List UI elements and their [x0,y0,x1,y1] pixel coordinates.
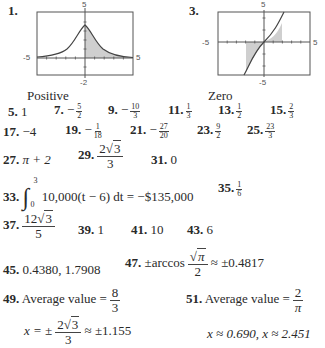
integral: ∫ 3 0 [23,180,39,207]
answer-number: 27. [3,152,19,167]
fraction: 2π [293,286,304,315]
denominator: 3 [289,112,293,120]
answer-number: 25. [247,122,263,137]
answer-21: 21. −2720 [130,122,169,140]
answer-5: 5. 1 [8,104,28,120]
answer-number: 11. [168,102,184,117]
average-value-label: Average value = [205,291,290,306]
answer-number: 31. [151,152,167,167]
x-min-label: -5 [23,53,30,62]
denominator: 5 [35,227,42,241]
answer-29: 29.2√33 [78,142,123,171]
answer-number: 13. [218,102,234,117]
radicand: 3 [113,140,122,156]
fraction: 103 [130,103,140,120]
answer-19: 19. −118 [65,122,102,140]
answer-51: 51. Average value =2π [186,286,303,315]
answer-number: 19. [65,122,81,137]
denominator: 3 [187,112,191,120]
answer-value: 10 [151,222,164,237]
numerator: 12√3 [22,212,55,227]
answer-number: 43. [187,222,203,237]
answer-49-line2: x = ±2√33 ≈ ±1.155 [24,318,131,347]
y-max-label: 5 [82,0,86,9]
fraction: 23 [288,103,294,120]
fraction: 16 [236,181,242,198]
problem-number-1: 1. [8,3,18,19]
fraction: 13 [186,103,192,120]
answer-number: 29. [78,147,94,162]
answer-27: 27. π + 2 [3,152,51,168]
fraction: 83 [110,286,121,315]
answer-number: 51. [186,291,202,306]
answer-45: 45. 0.4380, 1.7908 [3,262,101,278]
minus-sign: − [121,102,128,117]
answer-39: 39. 1 [78,222,104,238]
answer-47: 47. ±arccos√π2 ≈ ±0.4817 [125,250,264,279]
denominator: 18 [94,132,102,140]
answer-number: 23. [197,122,213,137]
cubic-curve-graph [210,2,322,86]
answer-number: 35. [218,180,234,195]
square-root: √3 [64,318,80,332]
answer-value: 6 [207,222,214,237]
fraction: 52 [76,103,82,120]
denominator: 2 [77,112,81,120]
answer-31: 31. 0 [151,152,177,168]
fraction: 118 [94,123,102,140]
radicand: 3 [71,316,80,332]
minus-sign: − [150,122,157,137]
answer-number: 37. [3,217,19,232]
answer-value: −4 [23,124,37,139]
answer-51-line2: x ≈ 0.690, x ≈ 2.451 [207,326,311,342]
answer-number: 21. [130,122,146,137]
graph-3: 5 -5 -5 5 [210,2,322,86]
answer-value: ≈ ±0.4817 [211,255,264,270]
denominator: 3 [133,112,137,120]
arccos-prefix: ±arccos [145,255,185,270]
square-root: √3 [106,142,122,156]
answer-number: 45. [3,262,19,277]
minus-sign: − [67,102,74,117]
numerator: 2 [293,286,304,301]
x-min-label: -5 [202,38,209,47]
answer-number: 9. [108,102,118,117]
denominator: 2 [237,112,241,120]
denominator: 3 [268,132,272,140]
fraction: 2720 [159,123,169,140]
denominator: 6 [237,190,241,198]
answer-number: 41. [131,222,147,237]
integrand: 10,000(t − 6) dt [42,189,124,204]
y-min-label: -5 [259,78,266,87]
answer-7: 7. −52 [54,102,82,120]
bell-curve-graph [29,2,149,86]
y-min-label: -2 [80,78,87,87]
radicand: π [197,248,206,264]
answer-35: 35.16 [218,180,242,198]
coefficient: 12 [24,211,37,226]
answer-number: 17. [3,124,19,139]
radicand: 3 [44,210,53,226]
answer-number: 49. [3,291,19,306]
fraction: √π2 [188,250,208,279]
answer-13: 13.12 [218,102,242,120]
answer-43: 43. 6 [187,222,213,238]
numerator: √π [188,250,208,265]
answer-15: 15.23 [270,102,294,120]
fraction: 12 [236,103,242,120]
integral-sign-icon: ∫ [23,184,30,210]
numerator: 2√3 [97,142,123,157]
numerator: 8 [110,286,121,301]
fraction: 2√33 [97,142,123,171]
answer-number: 15. [270,102,286,117]
x-max-label: 5 [313,38,317,47]
fraction: 2√33 [55,318,81,347]
answer-37: 37.12√35 [3,212,55,241]
answer-value: π + 2 [23,152,51,167]
answer-25: 25.233 [247,122,275,140]
lower-limit: 0 [31,200,35,209]
answer-11: 11.13 [168,102,192,120]
answer-23: 23.92 [197,122,221,140]
numerator: 2√3 [55,318,81,333]
answer-number: 47. [125,255,141,270]
